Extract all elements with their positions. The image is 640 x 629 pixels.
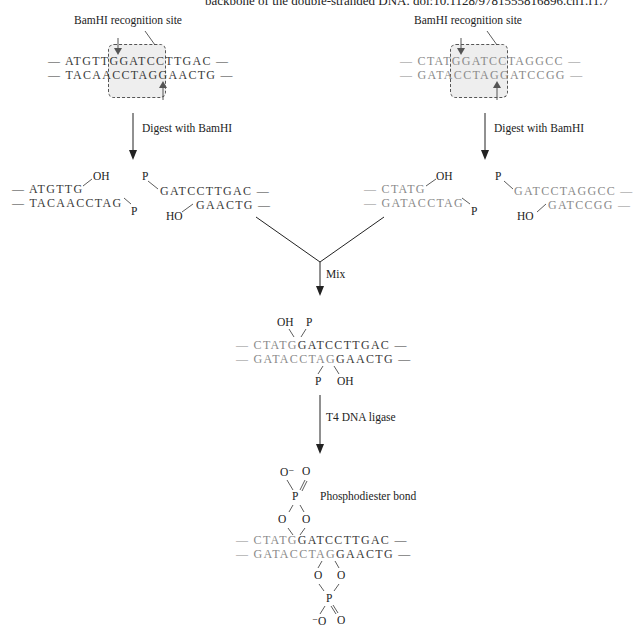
left-cut-right-top: GATCCTTGAC — [160, 184, 270, 198]
mix-p-top: P [306, 316, 312, 328]
right-digest-label: Digest with BamHI [494, 122, 584, 134]
bottom-o-left: O [314, 569, 322, 581]
left-bottom-strand: — TACAACCTAGGAACTG — [48, 68, 234, 82]
right-bottom-strand: — GATACCTAGGATCCGG — [400, 68, 583, 82]
mix-top-strand: — CTATGGATCCTTGAC — [236, 338, 408, 352]
top-p: P [292, 490, 298, 502]
left-oh: OH [93, 170, 110, 182]
top-o-double: O [302, 465, 310, 477]
right-cut-right-bottom: GATCCGG — [548, 198, 631, 212]
mix-p-bottom: P [315, 375, 321, 387]
phosphodiester-bond-label: Phosphodiester bond [320, 490, 416, 502]
bottom-minus-o: ⁻O [312, 614, 326, 628]
left-cut-right-bottom: GAACTG — [196, 198, 271, 212]
left-ho: HO [166, 210, 183, 222]
mix-oh-top: OH [277, 316, 294, 328]
ligase-top-strand: — CTATGGATCCTTGAC — [236, 533, 408, 547]
right-p-bottom: P [471, 205, 477, 217]
right-cut-left-bottom: — GATACCTAG [364, 196, 464, 210]
left-top-strand: — ATGTTGGATCCTTGAC — [48, 54, 229, 68]
bottom-o-right: O [337, 569, 345, 581]
left-cut-left-top: — ATGTTG [12, 182, 83, 196]
right-p-top: P [495, 170, 501, 182]
right-cut-left-top: — CTATG [364, 182, 426, 196]
top-o-right: O [302, 513, 310, 525]
left-digest-label: Digest with BamHI [142, 122, 232, 134]
right-ho: HO [517, 210, 534, 222]
left-cut-left-bottom: — TACAACCTAG [12, 196, 122, 210]
bottom-p: P [326, 592, 332, 604]
right-top-strand: — CTATGGATCCTAGGCC — [400, 54, 581, 68]
mix-oh-bottom: OH [337, 375, 354, 387]
left-site-label: BamHI recognition site [74, 14, 182, 26]
right-oh: OH [436, 170, 453, 182]
ligase-bottom-strand: — GATACCTAGGAACTG — [236, 547, 411, 561]
left-p-top: P [142, 170, 148, 182]
right-cut-right-top: GATCCTAGGCC — [514, 184, 634, 198]
mix-bottom-strand: — GATACCTAGGAACTG — [236, 352, 411, 366]
mix-label: Mix [326, 268, 345, 280]
top-o-left: O [278, 513, 286, 525]
ligase-label: T4 DNA ligase [326, 411, 396, 423]
left-p-bottom: P [131, 205, 137, 217]
bottom-o-double: O [337, 614, 345, 626]
top-o-minus: O⁻ [280, 465, 294, 479]
right-site-label: BamHI recognition site [414, 14, 522, 26]
